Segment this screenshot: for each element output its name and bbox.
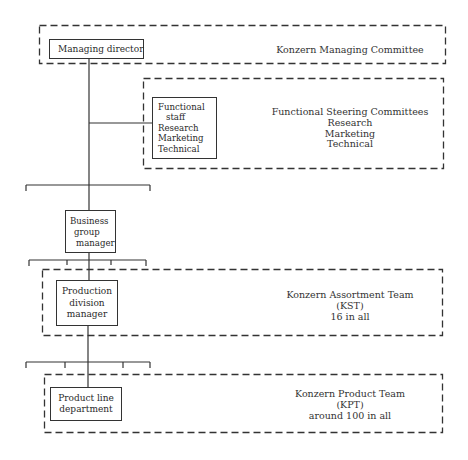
- steering-committees-label: Functional Steering Committees Research …: [270, 107, 430, 150]
- product-team-line: (KPT): [270, 399, 430, 410]
- functional-staff-line: Marketing: [158, 133, 216, 143]
- product-team-label: Konzern Product Team (KPT) around 100 in…: [270, 388, 430, 421]
- managing-director-label: Managing director: [58, 44, 143, 55]
- functional-staff-line: Functional: [158, 102, 216, 112]
- business-group-line: group: [70, 227, 115, 238]
- product-team-line: Konzern Product Team: [270, 388, 430, 399]
- production-division-line: manager: [57, 309, 117, 321]
- managing-committee-label: Konzern Managing Committee: [270, 44, 430, 56]
- managing-director-box: Managing director: [49, 39, 144, 59]
- product-line-department-box: Product line department: [50, 387, 122, 421]
- assortment-team-line: 16 in all: [270, 311, 430, 322]
- production-division-line: Production: [57, 286, 117, 298]
- product-line-line: Product line: [51, 393, 121, 404]
- functional-staff-box: Functional staff Research Marketing Tech…: [152, 97, 217, 159]
- assortment-team-line: (KST): [270, 300, 430, 311]
- business-group-line: Business: [70, 216, 115, 227]
- production-division-manager-box: Production division manager: [56, 280, 118, 326]
- product-line-line: department: [51, 404, 121, 415]
- managing-committee-line: Konzern Managing Committee: [270, 44, 430, 56]
- product-team-line: around 100 in all: [270, 410, 430, 421]
- production-division-line: division: [57, 298, 117, 310]
- functional-staff-line: staff: [158, 112, 216, 122]
- functional-staff-line: Research: [158, 123, 216, 133]
- steering-committees-line: Research: [270, 118, 430, 129]
- steering-committees-line: Technical: [270, 139, 430, 150]
- functional-staff-line: Technical: [158, 144, 216, 154]
- assortment-team-line: Konzern Assortment Team: [270, 289, 430, 300]
- business-group-manager-box: Business group manager: [65, 210, 116, 253]
- business-group-line: manager: [70, 238, 115, 249]
- assortment-team-label: Konzern Assortment Team (KST) 16 in all: [270, 289, 430, 322]
